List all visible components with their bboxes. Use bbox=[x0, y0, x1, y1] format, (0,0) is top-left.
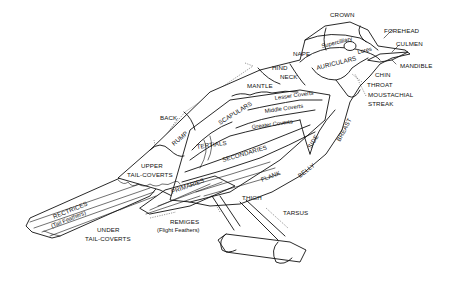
label-moustachial-streak: STREAK bbox=[368, 100, 394, 107]
label-remiges: REMIGES bbox=[170, 218, 199, 225]
label-neck: NECK bbox=[280, 73, 298, 80]
label-mandible: MANDIBLE bbox=[400, 62, 432, 69]
label-thigh: THIGH bbox=[242, 194, 262, 201]
label-tarsus: TARSUS bbox=[283, 209, 308, 216]
label-flight-feathers: (Flight Feathers) bbox=[157, 227, 200, 233]
legs-and-perch bbox=[212, 196, 306, 263]
label-forehead: FOREHEAD bbox=[384, 27, 420, 34]
label-hind: HIND bbox=[272, 64, 288, 71]
label-moustachial: MOUSTACHIAL bbox=[368, 91, 414, 98]
label-upper: UPPER bbox=[141, 162, 163, 169]
label-under: UNDER bbox=[97, 226, 120, 233]
bird-drawing: CROWN FOREHEAD CULMEN Supercilliary Lore… bbox=[0, 0, 461, 282]
label-mantle: MANTLE bbox=[247, 82, 273, 89]
label-upper-tail-coverts: TAIL-COVERTS bbox=[127, 171, 173, 178]
bird-topography-diagram: CROWN FOREHEAD CULMEN Supercilliary Lore… bbox=[0, 0, 461, 282]
label-nape: NAPE bbox=[293, 50, 310, 57]
label-under-tail-coverts: TAIL-COVERTS bbox=[85, 235, 131, 242]
label-chin: CHIN bbox=[375, 71, 391, 78]
label-back: BACK bbox=[160, 114, 178, 121]
label-throat: THROAT bbox=[367, 81, 393, 88]
label-culmen: CULMEN bbox=[396, 40, 423, 47]
label-crown: CROWN bbox=[330, 11, 355, 18]
